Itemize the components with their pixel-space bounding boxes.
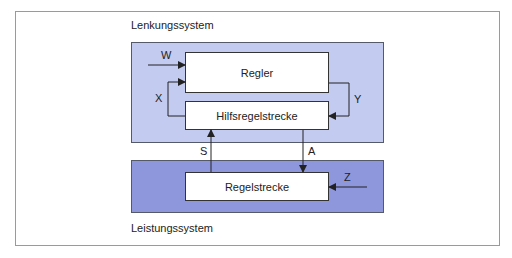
signal-arrows (0, 0, 512, 258)
signal-z-label: Z (344, 171, 351, 183)
signal-s-label: S (200, 145, 207, 157)
signal-x-label: X (155, 92, 162, 104)
signal-w-label: W (161, 49, 171, 61)
signal-y-label: Y (354, 93, 361, 105)
signal-a-label: A (308, 145, 315, 157)
